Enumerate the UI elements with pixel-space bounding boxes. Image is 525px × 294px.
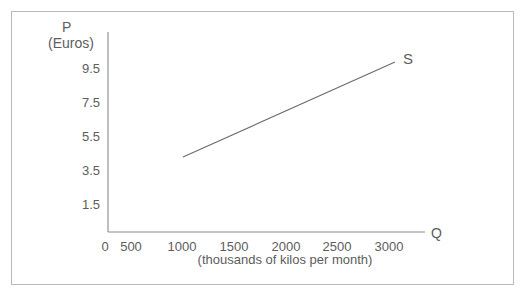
series-label-supply: S [403,51,413,66]
supply-curve-line [183,62,395,157]
y-tick-label: 7.5 [78,96,100,109]
x-tick-label: 0 [101,240,108,253]
y-tick-label: 9.5 [78,62,100,75]
y-tick-label: 3.5 [78,164,100,177]
y-tick-label: 5.5 [78,130,100,143]
y-tick-label: 1.5 [78,198,100,211]
x-tick-label: 500 [120,240,142,253]
x-tick-label: 1000 [168,240,197,253]
x-axis-subtitle: (thousands of kilos per month) [198,253,373,266]
figure-container: P (Euros) 9.5 7.5 5.5 3.5 1.5 0 500 1000… [0,0,525,294]
x-axis-title: Q [431,226,442,240]
y-axis-subtitle: (Euros) [48,36,94,50]
y-axis-title: P [62,20,71,34]
x-tick-label: 3000 [375,240,404,253]
